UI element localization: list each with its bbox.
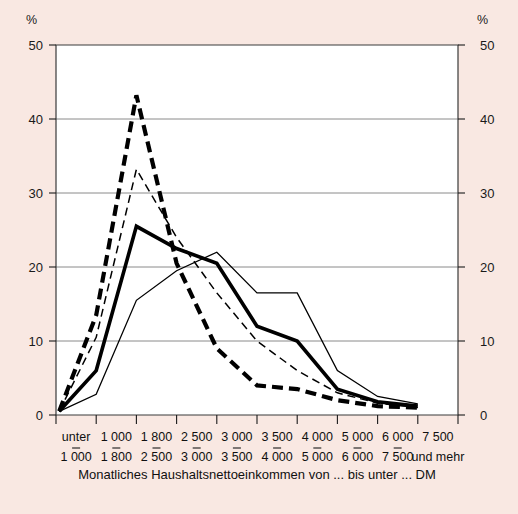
x-category-label-bottom: 2 500 — [141, 450, 172, 464]
x-category-label-bottom: 6 000 — [342, 450, 373, 464]
y-axis-labels-left: 01020304050 — [29, 38, 43, 423]
y-tick-label-left: 40 — [29, 112, 43, 127]
x-category-label-bottom: 7 500 — [382, 450, 413, 464]
y-tick-label-left: 20 — [29, 260, 43, 275]
y-tick-label-right: 50 — [480, 38, 494, 53]
x-category-label-bottom: 1 800 — [101, 450, 132, 464]
y-axis-unit-left: % — [26, 13, 37, 27]
x-category-label-bottom: 5 000 — [302, 450, 333, 464]
line-chart: 01020304050 01020304050 % % unter1 0001 … — [0, 0, 518, 514]
y-tick-label-left: 50 — [29, 38, 43, 53]
y-tick-label-left: 0 — [36, 408, 43, 423]
x-category-label-top: 4 000 — [302, 430, 333, 444]
y-tick-label-right: 30 — [480, 186, 494, 201]
x-category-label-top: 6 000 — [382, 430, 413, 444]
x-category-label-top: 1 000 — [101, 430, 132, 444]
y-tick-label-right: 0 — [480, 408, 487, 423]
x-category-label-top: 3 500 — [261, 430, 292, 444]
y-axis-unit-right: % — [477, 13, 488, 27]
y-tick-label-right: 10 — [480, 334, 494, 349]
x-category-label-top: 1 800 — [141, 430, 172, 444]
y-tick-label-left: 10 — [29, 334, 43, 349]
x-category-label-bottom: und mehr — [411, 450, 464, 464]
y-tick-label-right: 20 — [480, 260, 494, 275]
x-category-label-top: 5 000 — [342, 430, 373, 444]
x-category-label-top: 2 500 — [181, 430, 212, 444]
x-category-label-top: unter — [62, 430, 91, 444]
y-axis-labels-right: 01020304050 — [480, 38, 494, 423]
x-axis-ticks — [56, 415, 458, 424]
plot-area-background — [56, 45, 458, 415]
footer-watermark — [0, 496, 518, 514]
x-category-label-top: 7 500 — [422, 430, 453, 444]
x-category-label-bottom: 3 000 — [181, 450, 212, 464]
x-axis-caption: Monatliches Haushaltsnettoeinkommen von … — [78, 467, 436, 482]
x-category-label-bottom: 3 500 — [221, 450, 252, 464]
x-axis-category-labels: unter1 0001 0001 8001 8002 5002 5003 000… — [60, 430, 464, 464]
chart-container: 01020304050 01020304050 % % unter1 0001 … — [0, 0, 518, 514]
x-category-label-top: 3 000 — [221, 430, 252, 444]
x-category-label-bottom: 1 000 — [60, 450, 91, 464]
x-category-label-bottom: 4 000 — [261, 450, 292, 464]
y-tick-label-left: 30 — [29, 186, 43, 201]
y-tick-label-right: 40 — [480, 112, 494, 127]
